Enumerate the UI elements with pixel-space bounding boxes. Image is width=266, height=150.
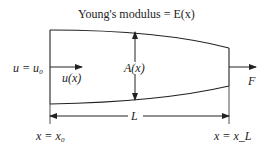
x-start-label: x = x₀: [36, 130, 65, 142]
displacement-label: u(x): [62, 72, 81, 84]
length-label: L: [131, 110, 138, 122]
x-end-label: x = x_L: [214, 130, 251, 142]
area-label: A(x): [123, 62, 146, 74]
bar-diagram: [0, 0, 266, 150]
force-label: F: [248, 75, 255, 87]
boundary-condition-label: u = u₀: [13, 62, 43, 74]
title-label: Young's modulus = E(x): [78, 8, 195, 20]
